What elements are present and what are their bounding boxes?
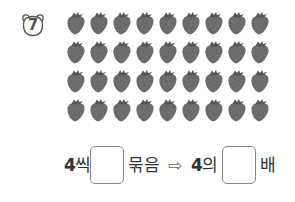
- problem-number: 7: [20, 16, 46, 34]
- strawberry-icon: [112, 40, 132, 64]
- strawberry-icon: [204, 98, 224, 122]
- strawberry-icon: [158, 98, 178, 122]
- group-suffix: 씩: [75, 154, 91, 176]
- strawberry-icon: [135, 11, 155, 35]
- strawberry-icon: [227, 11, 247, 35]
- strawberry-icon: [158, 11, 178, 35]
- strawberry-icon: [66, 40, 86, 64]
- answer-box-groups[interactable]: [90, 146, 124, 184]
- strawberry-icon: [66, 11, 86, 35]
- times-word: 배: [260, 154, 276, 176]
- strawberry-icon: [227, 40, 247, 64]
- strawberry-icon: [204, 11, 224, 35]
- strawberry-icon: [158, 69, 178, 93]
- strawberry-icon: [66, 98, 86, 122]
- strawberry-icon: [112, 69, 132, 93]
- equation-row: 4 씩 묶음 ⇨ 4 의 배: [0, 146, 295, 186]
- arrow-icon: ⇨: [168, 154, 182, 176]
- strawberry-icon: [250, 69, 270, 93]
- answer-box-times[interactable]: [222, 146, 256, 184]
- strawberry-icon: [112, 11, 132, 35]
- strawberry-icon: [250, 98, 270, 122]
- strawberry-icon: [158, 40, 178, 64]
- strawberry-icon: [112, 98, 132, 122]
- strawberry-icon: [89, 98, 109, 122]
- strawberry-icon: [89, 40, 109, 64]
- strawberry-icon: [89, 11, 109, 35]
- strawberry-icon: [66, 69, 86, 93]
- strawberry-icon: [227, 69, 247, 93]
- strawberry-icon: [89, 69, 109, 93]
- strawberry-icon: [135, 69, 155, 93]
- base-suffix: 의: [202, 154, 218, 176]
- strawberry-icon: [181, 98, 201, 122]
- strawberry-icon: [135, 40, 155, 64]
- strawberry-icon: [250, 11, 270, 35]
- strawberry-icon: [204, 69, 224, 93]
- strawberry-icon: [181, 11, 201, 35]
- strawberry-icon: [135, 98, 155, 122]
- strawberry-icon: [250, 40, 270, 64]
- strawberry-icon: [181, 69, 201, 93]
- strawberry-icon: [204, 40, 224, 64]
- bundle-word: 묶음: [128, 154, 160, 176]
- strawberry-grid: [66, 11, 273, 127]
- strawberry-icon: [181, 40, 201, 64]
- strawberry-icon: [227, 98, 247, 122]
